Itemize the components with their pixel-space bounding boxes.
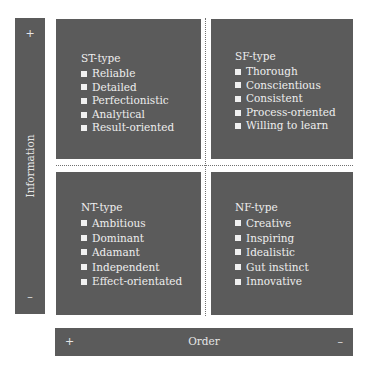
list-item: Effect-orientated: [81, 274, 182, 289]
square-bullet-icon: [235, 110, 241, 116]
quadrant-nf-type: NF-type Creative Inspiring Idealistic Gu…: [211, 172, 353, 315]
square-bullet-icon: [81, 125, 87, 131]
list-item: Ambitious: [81, 216, 182, 231]
list-item: Creative: [235, 216, 309, 231]
information-axis: + Information –: [15, 18, 45, 314]
square-bullet-icon: [81, 112, 87, 118]
list-item: Idealistic: [235, 245, 309, 260]
trait-list: Ambitious Dominant Adamant Independent E…: [81, 216, 182, 289]
list-item: Process-oriented: [235, 106, 336, 120]
trait-list: Reliable Detailed Perfectionistic Analyt…: [81, 67, 174, 135]
quadrant-title: ST-type: [81, 52, 174, 64]
square-bullet-icon: [81, 264, 87, 270]
square-bullet-icon: [235, 123, 241, 129]
information-axis-label: Information: [24, 134, 36, 197]
square-bullet-icon: [81, 249, 87, 255]
information-plus-sign: +: [15, 28, 45, 39]
quadrant-st-type: ST-type Reliable Detailed Perfectionisti…: [56, 19, 201, 159]
list-item: Consistent: [235, 92, 336, 106]
list-item: Adamant: [81, 245, 182, 260]
trait-list: Thorough Conscientious Consistent Proces…: [235, 65, 336, 133]
quadrant-title: SF-type: [235, 50, 336, 62]
list-item: Inspiring: [235, 231, 309, 246]
list-item: Innovative: [235, 274, 309, 289]
list-item: Conscientious: [235, 79, 336, 93]
list-item: Gut instinct: [235, 260, 309, 275]
vertical-dotted-divider: [205, 18, 206, 316]
list-item: Perfectionistic: [81, 94, 174, 108]
trait-list: Creative Inspiring Idealistic Gut instin…: [235, 216, 309, 289]
square-bullet-icon: [235, 249, 241, 255]
list-item: Dominant: [81, 231, 182, 246]
square-bullet-icon: [81, 84, 87, 90]
list-item: Analytical: [81, 108, 174, 122]
quadrant-title: NT-type: [81, 201, 182, 213]
list-item: Reliable: [81, 67, 174, 81]
square-bullet-icon: [81, 98, 87, 104]
square-bullet-icon: [235, 82, 241, 88]
square-bullet-icon: [235, 279, 241, 285]
list-item: Willing to learn: [235, 119, 336, 133]
order-axis-label: Order: [55, 335, 353, 347]
information-minus-sign: –: [15, 291, 45, 302]
square-bullet-icon: [235, 264, 241, 270]
square-bullet-icon: [235, 96, 241, 102]
quadrant-sf-type: SF-type Thorough Conscientious Consisten…: [211, 19, 353, 159]
square-bullet-icon: [81, 220, 87, 226]
square-bullet-icon: [235, 235, 241, 241]
square-bullet-icon: [235, 220, 241, 226]
square-bullet-icon: [235, 69, 241, 75]
square-bullet-icon: [81, 71, 87, 77]
list-item: Thorough: [235, 65, 336, 79]
order-minus-sign: –: [338, 336, 344, 347]
square-bullet-icon: [81, 279, 87, 285]
order-axis: + Order –: [55, 328, 353, 356]
square-bullet-icon: [81, 235, 87, 241]
list-item: Result-oriented: [81, 121, 174, 135]
quadrant-nt-type: NT-type Ambitious Dominant Adamant Indep…: [56, 172, 201, 315]
quadrant-title: NF-type: [235, 201, 309, 213]
list-item: Independent: [81, 260, 182, 275]
list-item: Detailed: [81, 81, 174, 95]
